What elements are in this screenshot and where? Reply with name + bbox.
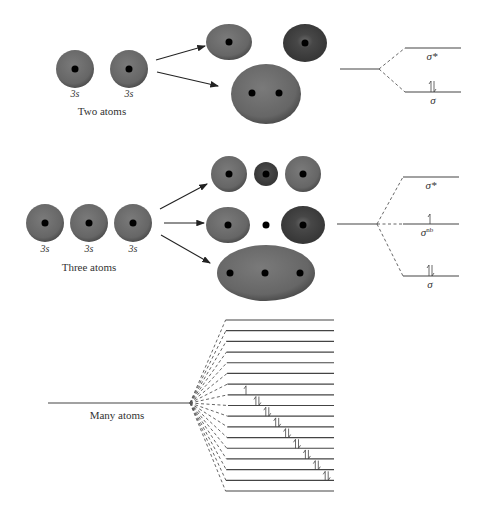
atomic-orbital-3s	[110, 50, 148, 88]
three-atoms-section: 3s 3s 3s Three atoms	[26, 156, 459, 301]
nucleus-dot	[297, 270, 304, 277]
level-label: σ	[430, 94, 436, 106]
level-label: σ*	[426, 179, 437, 191]
molecular-orbital-bonding	[231, 64, 301, 124]
correlation-line	[190, 384, 227, 403]
atomic-orbital-3s	[114, 204, 152, 242]
correlation-line	[190, 403, 226, 491]
nucleus-dot	[262, 270, 269, 277]
arrow-icon	[160, 184, 207, 209]
correlation-line	[190, 331, 226, 403]
nucleus-dot	[42, 220, 49, 227]
molecular-orbital-antibonding	[206, 24, 252, 60]
atomic-orbital-3s	[56, 50, 94, 88]
orbital-label: 3s	[70, 88, 80, 99]
two-atoms-section: 3s 3s Two atoms σ* σ	[56, 24, 461, 124]
section-caption: Three atoms	[62, 261, 117, 273]
nucleus-dot	[263, 171, 270, 178]
molecular-orbital-bonding	[217, 245, 315, 301]
section-caption: Many atoms	[90, 409, 145, 421]
orbital-label: 3s	[124, 88, 134, 99]
nucleus-dot	[276, 90, 283, 97]
electron-pair-icon	[429, 81, 436, 92]
energy-level-diagram: σ* σ	[340, 48, 461, 106]
correlation-line	[190, 403, 227, 448]
level-label: σ	[427, 278, 433, 290]
electron-up-icon	[244, 386, 246, 395]
nucleus-dot	[226, 39, 233, 46]
electron-pair-icon	[294, 439, 301, 448]
orbital-label: 3s	[84, 243, 94, 254]
level-label: σ*	[427, 50, 438, 62]
nucleus-dot	[249, 90, 256, 97]
nucleus-dot	[86, 220, 93, 227]
molecular-orbital-antibonding	[211, 156, 321, 192]
electron-pair-icon	[303, 450, 310, 459]
level-label: σnb	[421, 226, 434, 238]
atomic-orbital-3s	[26, 204, 64, 242]
nucleus-dot	[263, 222, 270, 229]
electron-up-icon	[428, 214, 430, 224]
correlation-line	[190, 403, 227, 459]
correlation-line	[190, 403, 226, 480]
correlation-line	[379, 69, 405, 92]
correlation-line	[377, 177, 403, 224]
energy-band	[190, 320, 334, 491]
many-atoms-section: Many atoms	[48, 320, 334, 491]
electron-pair-icon	[323, 471, 330, 480]
nucleus-dot	[300, 222, 307, 229]
electron-pair-icon	[284, 429, 291, 438]
correlation-line	[190, 363, 227, 403]
nucleus-dot	[226, 171, 233, 178]
orbital-label: 3s	[40, 243, 50, 254]
arrow-icon	[157, 72, 218, 86]
arrow-icon	[161, 235, 210, 263]
nucleus-dot	[72, 66, 79, 73]
atomic-orbital-3s	[70, 204, 108, 242]
energy-level-diagram: σ* σnb σ	[337, 177, 459, 290]
correlation-line	[190, 403, 226, 470]
correlation-line	[379, 48, 405, 69]
band-formation-diagram: 3s 3s Two atoms σ* σ	[0, 0, 483, 521]
electron-pair-icon	[264, 407, 271, 416]
correlation-line	[377, 224, 403, 276]
electron-pair-icon	[313, 461, 320, 470]
nucleus-dot	[300, 171, 307, 178]
correlation-line	[190, 341, 226, 403]
nucleus-dot	[126, 66, 133, 73]
orbital-label: 3s	[128, 243, 138, 254]
electron-pair-icon	[274, 418, 281, 427]
molecular-orbital-nonbonding	[206, 206, 325, 244]
nucleus-dot	[302, 40, 309, 47]
nucleus-dot	[225, 222, 232, 229]
electron-pair-icon	[427, 265, 434, 276]
nucleus-dot	[130, 220, 137, 227]
nucleus-dot	[227, 270, 234, 277]
correlation-line	[190, 403, 227, 438]
electron-pair-icon	[254, 397, 261, 406]
section-caption: Two atoms	[78, 105, 126, 117]
arrow-icon	[156, 46, 205, 60]
molecular-orbital-antibonding	[283, 24, 327, 62]
